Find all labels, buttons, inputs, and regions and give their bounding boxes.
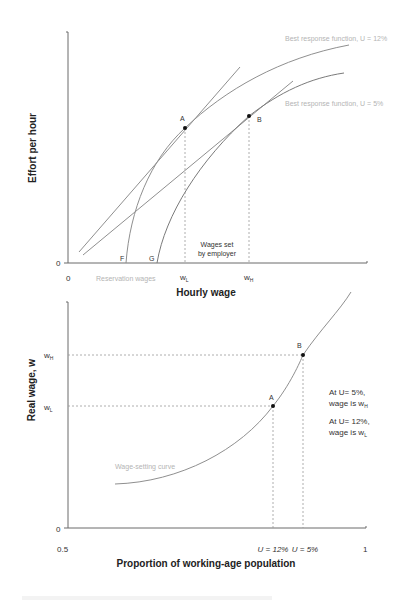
brf-5-label: Best response function, U = 5% [285,100,383,108]
isocost-line-a [79,67,240,252]
bottom-point-a-label: A [269,394,274,401]
wages-set-label-line1: Wages set [201,241,234,249]
point-b [247,114,251,118]
top-chart: Effort per hour Hourly wage 0 0 A B Best… [27,32,387,298]
bottom-x-axis-title: Proportion of working-age population [117,558,296,569]
reservation-wages-label: Reservation wages [96,275,156,283]
tick-wl: wL [179,273,189,283]
bottom-tick-wl: wL [43,403,53,413]
top-x-axis-title: Hourly wage [176,287,236,298]
figure: Effort per hour Hourly wage 0 0 A B Best… [0,0,401,600]
bottom-chart: Real wage, w Proportion of working-age p… [26,292,370,569]
bottom-x-start-label: 0.5 [57,545,69,554]
bottom-tick-wh: wH [43,351,54,361]
tick-u12: U = 12% [258,545,289,554]
tick-u5: U = 5% [292,545,318,554]
note-u5-line2: wage is wH [328,399,368,409]
point-b-label: B [257,116,262,123]
bottom-x-end-label: 1 [363,545,368,554]
top-y-axis-title: Effort per hour [27,113,38,183]
wage-setting-curve [115,292,351,484]
bottom-point-a [271,404,275,408]
bottom-y-origin-label: 0 [56,525,61,534]
top-axes [66,32,367,263]
tick-g: G [149,255,154,262]
point-a [183,126,187,130]
bottom-axes [66,302,366,528]
wages-set-label-line2: by employer [198,250,237,258]
tick-wh: wH [243,273,254,283]
point-a-label: A [180,115,185,122]
wage-setting-curve-label: Wage-setting curve [115,463,175,471]
bottom-y-axis-title: Real wage, w [26,359,37,421]
note-u12-line2: wage is wL [328,428,367,438]
brf-12-label: Best response function, U = 12% [285,35,387,43]
best-response-curve-12 [126,45,349,263]
top-x-origin-label: 0 [66,274,71,283]
caption-fragment [22,596,272,600]
bottom-point-b-label: B [297,342,302,349]
note-u12-line1: At U= 12%, [329,417,370,426]
tick-f: F [120,255,124,262]
bottom-point-b [301,353,305,357]
top-y-origin-label: 0 [56,259,61,268]
note-u5-line1: At U= 5%, [329,388,365,397]
